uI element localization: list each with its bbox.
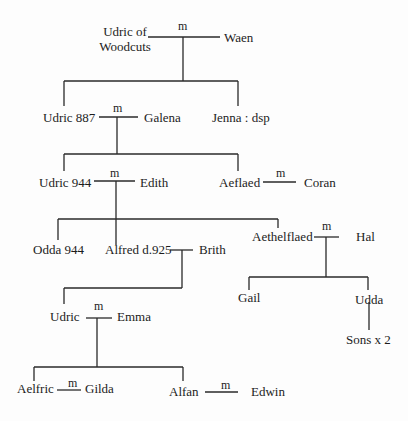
person-gail: Gail: [238, 290, 260, 305]
person-name-line2: Woodcuts: [99, 39, 151, 54]
person-name: Sons x 2: [346, 332, 391, 347]
person-emma: Emma: [117, 309, 151, 324]
person-jenna: Jenna : dsp: [212, 110, 270, 125]
person-name: Aethelflaed: [252, 229, 313, 244]
person-name: Galena: [144, 110, 181, 125]
family-tree-diagram: Udric ofWoodcutsWaenUdric 887GalenaJenna…: [0, 0, 408, 421]
marriage-mark: m: [276, 167, 285, 179]
person-odda-944: Odda 944: [33, 242, 84, 257]
person-alfred: Alfred d.925: [105, 242, 171, 257]
person-name: Udric: [50, 309, 80, 324]
marriage-mark: m: [68, 377, 77, 389]
person-name: Jenna : dsp: [212, 110, 270, 125]
person-galena: Galena: [144, 110, 181, 125]
person-hal: Hal: [356, 229, 375, 244]
marriage-mark: m: [221, 379, 230, 391]
person-brith: Brith: [199, 242, 226, 257]
person-sons: Sons x 2: [346, 332, 391, 347]
person-name: Udda: [355, 292, 383, 307]
person-aeflaed: Aeflaed: [219, 175, 260, 190]
person-name: Edwin: [251, 384, 285, 399]
person-udric-944: Udric 944: [39, 175, 91, 190]
person-aelfric: Aelfric: [17, 381, 54, 396]
marriage-mark: m: [113, 102, 122, 114]
person-aethelflaed: Aethelflaed: [252, 229, 313, 244]
person-udric-887: Udric 887: [43, 110, 95, 125]
marriage-mark: m: [322, 220, 331, 232]
person-name: Odda 944: [33, 242, 84, 257]
person-name: Brith: [199, 242, 226, 257]
person-edwin: Edwin: [251, 384, 285, 399]
person-name: Waen: [224, 30, 253, 45]
person-udric-woodcuts: Udric ofWoodcuts: [97, 24, 153, 54]
person-name: Alfan: [169, 384, 199, 399]
person-name: Edith: [140, 175, 168, 190]
person-name: Udric of: [103, 24, 147, 39]
tree-connector-lines: [0, 0, 408, 421]
person-name: Aelfric: [17, 381, 54, 396]
person-name: Gail: [238, 290, 260, 305]
marriage-mark: m: [110, 167, 119, 179]
person-alfan: Alfan: [169, 384, 199, 399]
marriage-mark: m: [178, 20, 187, 32]
person-name: Gilda: [85, 381, 114, 396]
person-udric: Udric: [50, 309, 80, 324]
marriage-mark: m: [94, 300, 103, 312]
person-gilda: Gilda: [85, 381, 114, 396]
person-name: Emma: [117, 309, 151, 324]
person-coran: Coran: [304, 175, 336, 190]
person-name: Coran: [304, 175, 336, 190]
person-name: Aeflaed: [219, 175, 260, 190]
person-name: Alfred d.925: [105, 242, 171, 257]
person-name: Udric 887: [43, 110, 95, 125]
person-name: Udric 944: [39, 175, 91, 190]
person-edith: Edith: [140, 175, 168, 190]
person-name: Hal: [356, 229, 375, 244]
person-waen: Waen: [224, 30, 253, 45]
person-udda: Udda: [355, 292, 383, 307]
